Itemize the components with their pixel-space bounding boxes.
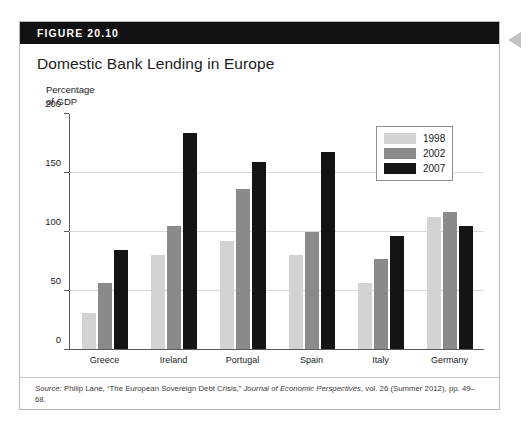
- bar-spain-2002: [305, 232, 319, 350]
- source-divider: [20, 377, 499, 378]
- x-axis-line: [69, 349, 484, 350]
- figure-number-label: FIGURE 20.10: [37, 27, 119, 39]
- x-axis-label-portugal: Portugal: [208, 355, 277, 365]
- source-text-1: Philip Lane, “The European Sovereign Deb…: [62, 384, 244, 393]
- bar-greece-2007: [114, 250, 128, 349]
- source-prefix: Source:: [35, 384, 62, 393]
- bar-italy-1998: [358, 283, 372, 349]
- y-axis-tick: [64, 349, 69, 350]
- figure-frame: FIGURE 20.10 Domestic Bank Lending in Eu…: [19, 21, 500, 410]
- y-axis-tick: [64, 172, 69, 173]
- bar-portugal-2002: [236, 189, 250, 349]
- bar-group: Ireland: [139, 114, 208, 349]
- figure-title: Domestic Bank Lending in Europe: [37, 55, 274, 73]
- legend-item: 2007: [384, 162, 445, 175]
- chart-legend: 1998 2002 2007: [376, 126, 453, 181]
- bar-germany-1998: [427, 217, 441, 349]
- y-axis-tick-label: 0: [35, 334, 61, 345]
- bar-spain-1998: [289, 255, 303, 349]
- legend-label-2007: 2007: [423, 163, 445, 174]
- x-axis-label-italy: Italy: [346, 355, 415, 365]
- bar-greece-1998: [82, 313, 96, 349]
- y-axis-tick-label: 50: [35, 275, 61, 286]
- x-axis-label-greece: Greece: [70, 355, 139, 365]
- legend-swatch-2002: [384, 148, 416, 159]
- bar-ireland-1998: [151, 255, 165, 349]
- source-note: Source: Philip Lane, “The European Sover…: [35, 384, 485, 405]
- bar-group: Portugal: [208, 114, 277, 349]
- y-axis-tick-label: 150: [35, 157, 61, 168]
- legend-item: 1998: [384, 132, 445, 145]
- bar-italy-2002: [374, 259, 388, 349]
- y-axis-tick: [64, 290, 69, 291]
- legend-label-2002: 2002: [423, 148, 445, 159]
- bar-germany-2002: [443, 212, 457, 349]
- y-axis-tick: [64, 231, 69, 232]
- bar-portugal-2007: [252, 162, 266, 349]
- bar-ireland-2002: [167, 226, 181, 349]
- legend-swatch-2007: [384, 163, 416, 174]
- bar-greece-2002: [98, 283, 112, 349]
- legend-item: 2002: [384, 147, 445, 160]
- bar-germany-2007: [459, 226, 473, 349]
- y-axis-tick: [64, 113, 69, 114]
- bar-ireland-2007: [183, 133, 197, 349]
- bar-group: Spain: [277, 114, 346, 349]
- x-axis-label-ireland: Ireland: [139, 355, 208, 365]
- source-journal: Journal of Economic Perspectives: [243, 384, 360, 393]
- y-axis-tick-label: 200: [35, 98, 61, 109]
- x-axis-label-germany: Germany: [415, 355, 484, 365]
- y-axis-tick-label: 100: [35, 216, 61, 227]
- bar-portugal-1998: [220, 241, 234, 349]
- bar-spain-2007: [321, 152, 335, 349]
- figure-header-band: FIGURE 20.10: [20, 22, 499, 44]
- bar-italy-2007: [390, 236, 404, 349]
- x-axis-label-spain: Spain: [277, 355, 346, 365]
- bar-group: Greece: [70, 114, 139, 349]
- legend-swatch-1998: [384, 133, 416, 144]
- margin-arrow-icon: [508, 32, 521, 48]
- legend-label-1998: 1998: [423, 133, 445, 144]
